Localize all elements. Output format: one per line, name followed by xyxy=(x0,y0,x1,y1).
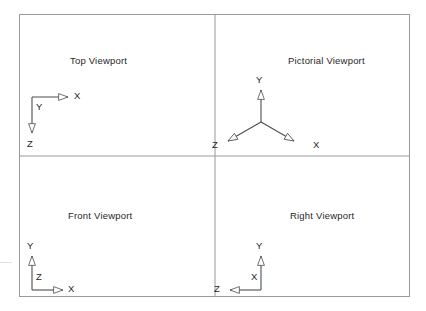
axis-label-pictorial-y: Y xyxy=(256,74,262,85)
axis-label-right-y: Y xyxy=(256,240,262,251)
viewport-label-top: Top Viewport xyxy=(70,55,127,66)
viewport-diagram: Top Viewport Pictorial Viewport Front Vi… xyxy=(0,0,426,311)
axis-label-top-y: Y xyxy=(36,101,42,112)
scan-artifact xyxy=(0,262,12,263)
axis-label-front-y: Y xyxy=(27,240,33,251)
axis-label-pictorial-x: X xyxy=(313,139,319,150)
axis-label-right-z: Z xyxy=(214,283,220,294)
axis-label-right-x: X xyxy=(251,271,257,282)
axis-label-top-x: X xyxy=(74,90,80,101)
axis-label-pictorial-z: Z xyxy=(212,139,218,150)
diagram-canvas xyxy=(0,0,426,311)
axis-label-front-x: X xyxy=(68,283,74,294)
axis-label-front-z: Z xyxy=(36,271,42,282)
axis-label-top-z: Z xyxy=(27,138,33,149)
viewport-label-right: Right Viewport xyxy=(290,210,354,221)
viewport-label-front: Front Viewport xyxy=(68,210,132,221)
viewport-label-pictorial: Pictorial Viewport xyxy=(288,55,365,66)
